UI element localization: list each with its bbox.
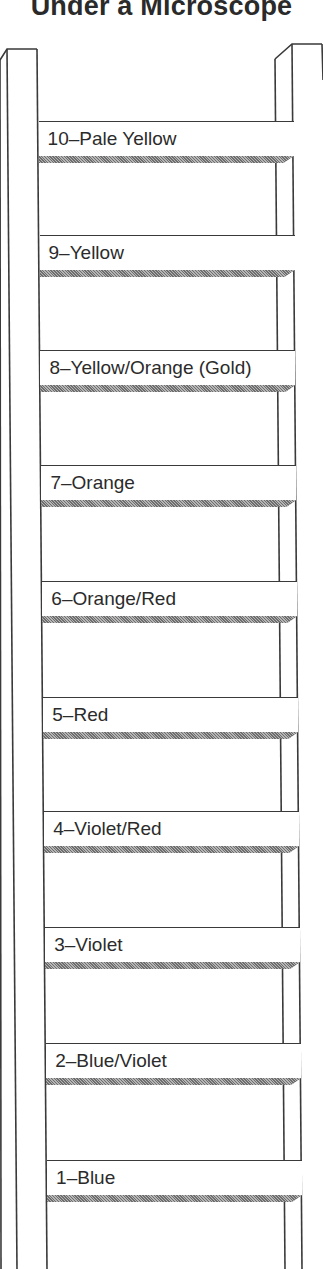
rung-label: 2–Blue/Violet [55,1050,167,1072]
rung-shadow [41,500,296,507]
rung-shadow [46,1078,301,1085]
rung-shadow [39,156,294,163]
right-rail [275,44,323,1269]
rung-shadow [44,846,299,853]
left-rail [0,49,47,1269]
ladder-rung-2: 2–Blue/Violet [46,1043,301,1078]
ladder-rung-3: 3–Violet [45,927,300,962]
rung-label: 6–Orange/Red [51,588,176,610]
rung-label: 10–Pale Yellow [48,128,177,150]
ladder-rung-9: 9–Yellow [40,235,295,270]
rung-shadow [47,1195,302,1202]
rung-shadow [43,732,298,739]
rung-shadow [42,616,297,623]
ladder-rung-8: 8–Yellow/Orange (Gold) [40,350,295,385]
ladder-rung-6: 6–Orange/Red [42,581,297,616]
ladder-rung-7: 7–Orange [41,465,296,500]
rung-label: 5–Red [52,704,108,726]
ladder-rung-4: 4–Violet/Red [44,811,299,846]
ladder-rung-5: 5–Red [43,697,298,732]
rung-shadow [40,270,295,277]
rung-shadow [40,385,295,392]
ladder-rung-10: 10–Pale Yellow [39,121,294,156]
rung-label: 9–Yellow [49,242,124,264]
rung-label: 4–Violet/Red [53,818,161,840]
rung-label: 1–Blue [56,1167,115,1189]
rung-label: 3–Violet [54,934,122,956]
ladder-rung-1: 1–Blue [47,1160,302,1195]
rung-label: 7–Orange [50,472,135,494]
rung-label: 8–Yellow/Orange (Gold) [49,357,251,379]
rung-shadow [45,962,300,969]
